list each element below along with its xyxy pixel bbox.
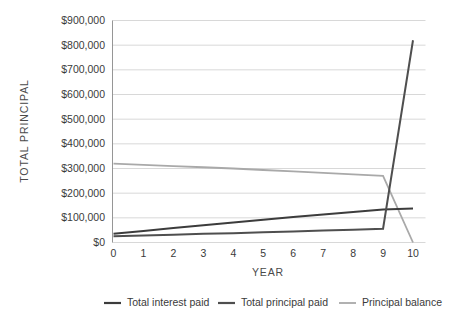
x-tick-label: 6	[290, 247, 296, 259]
chart-canvas: $0$100,000$200,000$300,000$400,000$500,0…	[0, 0, 449, 319]
y-tick-label: $500,000	[61, 113, 105, 125]
y-tick-label: $900,000	[61, 14, 105, 26]
y-tick-label: $800,000	[61, 39, 105, 51]
x-tick-label: 0	[111, 247, 117, 259]
x-axis-tick-labels: 012345678910	[111, 247, 419, 259]
x-axis-title: YEAR	[252, 266, 284, 278]
x-tick-label: 4	[230, 247, 236, 259]
chart-legend: Total interest paidTotal principal paidP…	[104, 296, 442, 308]
x-tick-label: 2	[170, 247, 176, 259]
x-tick-label: 5	[260, 247, 266, 259]
x-tick-label: 7	[320, 247, 326, 259]
y-axis-tick-labels: $0$100,000$200,000$300,000$400,000$500,0…	[61, 14, 105, 248]
y-tick-label: $700,000	[61, 63, 105, 75]
series-lines	[114, 40, 414, 242]
y-tick-label: $300,000	[61, 162, 105, 174]
y-tick-label: $400,000	[61, 137, 105, 149]
legend-label: Principal balance	[362, 296, 442, 308]
y-tick-label: $200,000	[61, 187, 105, 199]
x-tick-label: 3	[200, 247, 206, 259]
x-tick-label: 10	[407, 247, 419, 259]
series-line-principal-balance	[114, 164, 414, 243]
y-axis-title: TOTAL PRINCIPAL	[18, 79, 30, 183]
y-tick-label: $600,000	[61, 88, 105, 100]
line-chart: $0$100,000$200,000$300,000$400,000$500,0…	[0, 0, 449, 319]
legend-label: Total principal paid	[241, 296, 328, 308]
y-tick-label: $100,000	[61, 211, 105, 223]
x-tick-label: 1	[141, 247, 147, 259]
y-tick-label: $0	[93, 236, 105, 248]
x-tick-label: 8	[350, 247, 356, 259]
x-tick-label: 9	[380, 247, 386, 259]
legend-label: Total interest paid	[127, 296, 209, 308]
